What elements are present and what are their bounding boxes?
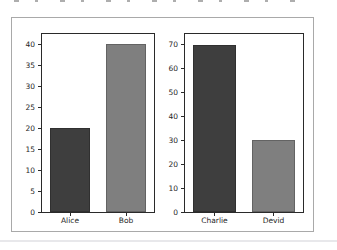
y-tick-mark: [38, 65, 41, 66]
y-tick-mark: [181, 44, 184, 45]
left-subplot-axes: 0510152025303540AliceBob: [41, 33, 155, 213]
x-tick-label-alice: Alice: [40, 216, 100, 225]
y-tick-mark: [181, 188, 184, 189]
y-tick-mark: [181, 68, 184, 69]
x-tick-label-devid: Devid: [244, 216, 304, 225]
right-subplot-axes: 010203040506070CharlieDevid: [184, 33, 304, 213]
y-tick-mark: [38, 107, 41, 108]
y-tick-mark: [38, 212, 41, 213]
y-tick-mark: [181, 92, 184, 93]
y-tick-label: 10: [2, 166, 35, 175]
y-tick-label: 5: [2, 187, 35, 196]
y-tick-label: 30: [2, 82, 35, 91]
y-tick-label: 60: [145, 64, 178, 73]
y-tick-label: 0: [2, 208, 35, 217]
x-tick-label-bob: Bob: [96, 216, 156, 225]
y-tick-label: 15: [2, 145, 35, 154]
bar-bob: [106, 44, 146, 212]
bar-charlie: [193, 45, 235, 212]
y-tick-mark: [181, 212, 184, 213]
y-tick-label: 20: [2, 124, 35, 133]
y-tick-mark: [181, 164, 184, 165]
screenshot-root: 0510152025303540AliceBob 010203040506070…: [0, 0, 337, 250]
y-tick-mark: [38, 44, 41, 45]
y-tick-mark: [38, 128, 41, 129]
y-tick-mark: [38, 170, 41, 171]
y-tick-label: 35: [2, 61, 35, 70]
y-tick-label: 25: [2, 103, 35, 112]
y-tick-label: 0: [145, 208, 178, 217]
clipped-text-fragments: [14, 0, 300, 2]
y-tick-mark: [181, 116, 184, 117]
y-tick-mark: [38, 86, 41, 87]
x-tick-label-charlie: Charlie: [185, 216, 245, 225]
y-tick-label: 10: [145, 184, 178, 193]
y-tick-mark: [38, 191, 41, 192]
bar-alice: [50, 128, 90, 212]
bar-devid: [252, 140, 294, 212]
y-tick-label: 70: [145, 40, 178, 49]
y-tick-mark: [38, 149, 41, 150]
bar-chart-figure: 0510152025303540AliceBob 010203040506070…: [11, 17, 314, 232]
y-tick-label: 40: [145, 112, 178, 121]
y-tick-label: 50: [145, 88, 178, 97]
y-tick-label: 20: [145, 160, 178, 169]
y-tick-label: 30: [145, 136, 178, 145]
y-tick-label: 40: [2, 40, 35, 49]
bottom-separator-line: [0, 240, 337, 242]
y-tick-mark: [181, 140, 184, 141]
